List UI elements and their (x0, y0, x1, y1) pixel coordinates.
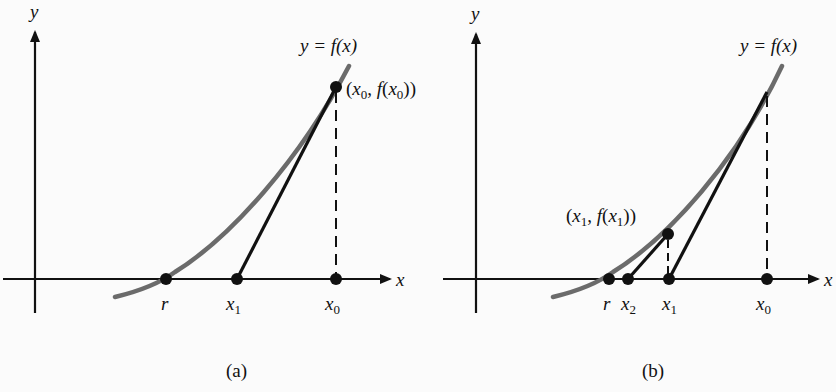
label-x0: x0 (324, 293, 340, 317)
panel-a: y x y = f(x) (x0, f(x0)) r x1 x0 (a) (3, 1, 416, 382)
label-x1: x1 (225, 293, 241, 317)
label-r: r (603, 293, 611, 314)
function-curve (115, 66, 349, 297)
point-x0 (761, 273, 773, 285)
point-x2 (622, 273, 634, 285)
y-axis-label: y (469, 3, 480, 24)
y-axis-label: y (28, 1, 39, 22)
caption-a: (a) (226, 360, 247, 382)
panel-b: y x y = f(x) (x1, f(x1)) r x2 x1 x0 (b) (443, 3, 833, 382)
point-label-x0-fx0: (x0, f(x0)) (346, 78, 416, 102)
x-axis-label: x (823, 269, 833, 290)
curve-label: y = f(x) (738, 35, 797, 57)
tangent-line (237, 87, 336, 279)
label-x1: x1 (661, 293, 677, 317)
point-x0-fx0 (330, 81, 342, 93)
point-r (160, 273, 172, 285)
point-x1 (663, 273, 675, 285)
function-curve (553, 66, 782, 297)
point-label-x1-fx1: (x1, f(x1)) (566, 205, 636, 229)
label-x2: x2 (620, 293, 636, 317)
newton-method-figure: y x y = f(x) (x0, f(x0)) r x1 x0 (a) y (0, 0, 836, 392)
point-x1 (231, 273, 243, 285)
point-x0 (330, 273, 342, 285)
curve-label: y = f(x) (298, 35, 357, 57)
point-x1-fx1 (662, 228, 674, 240)
tangent-line-1 (669, 92, 767, 279)
point-r (603, 273, 615, 285)
x-axis-label: x (395, 269, 405, 290)
label-r: r (161, 293, 169, 314)
label-x0: x0 (755, 293, 771, 317)
caption-b: (b) (642, 360, 664, 382)
